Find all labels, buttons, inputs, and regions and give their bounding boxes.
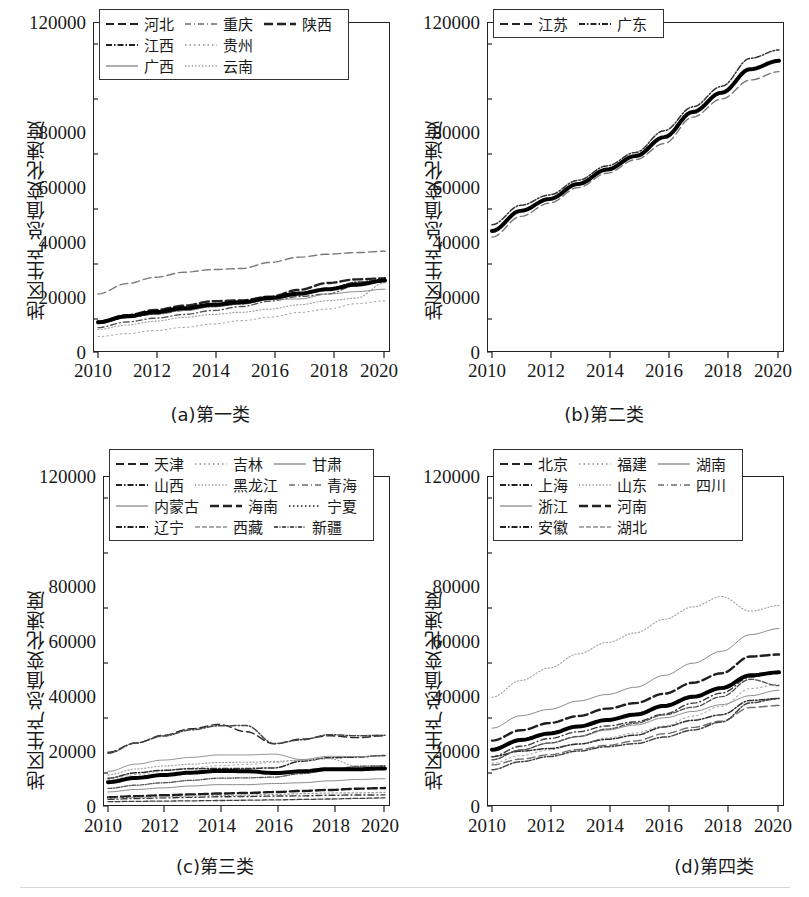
legend-line-icon	[578, 479, 612, 491]
panel-d-xtick-2012: 2012	[521, 815, 571, 837]
panel-a-legend[interactable]: 河北重庆陕西江西贵州 广西云南	[99, 9, 349, 80]
legend-key-dotted-light	[194, 458, 228, 470]
legend-item-福建[interactable]: 福建	[578, 453, 647, 474]
panel-a-xtick-2016: 2016	[245, 360, 295, 382]
legend-item-湖北[interactable]: 湖北	[578, 516, 647, 537]
legend-row: 天津吉林甘肃	[115, 453, 367, 474]
legend-item-新疆[interactable]: 新疆	[273, 516, 342, 537]
legend-item-辽宁[interactable]: 辽宁	[115, 516, 184, 537]
legend-item-青海[interactable]: 青海	[288, 474, 357, 495]
panel-d-xtick-2010: 2010	[462, 815, 512, 837]
legend-item-山西[interactable]: 山西	[115, 474, 184, 495]
legend-key-dashed	[499, 458, 533, 470]
panel-a-ytick-40000: 40000	[0, 232, 86, 254]
legend-label: 重庆	[223, 13, 253, 34]
legend-row: 山西黑龙江青海	[115, 474, 367, 495]
legend-item-天津[interactable]: 天津	[115, 453, 184, 474]
legend-item-河北[interactable]: 河北	[105, 13, 174, 34]
panel-c-xtick-2014: 2014	[192, 815, 242, 837]
panel-d-caption: (d)第四类	[654, 852, 774, 878]
legend-key-dash-dot	[499, 521, 533, 533]
legend-row: 浙江河南	[499, 495, 736, 516]
legend-item-浙江[interactable]: 浙江	[499, 495, 568, 516]
legend-label: 宁夏	[327, 495, 357, 516]
panel-b-legend[interactable]: 江苏广东	[493, 9, 664, 38]
panel-a-xtick-2014: 2014	[186, 360, 236, 382]
panel-a-xtick-2012: 2012	[127, 360, 177, 382]
legend-key-dashed-thick	[578, 500, 612, 512]
legend-row: 江苏广东	[499, 13, 657, 34]
legend-label: 北京	[538, 453, 568, 474]
legend-key-dotted-light	[184, 39, 218, 51]
panel-a-ytick-20000: 20000	[0, 287, 86, 309]
legend-item-甘肃[interactable]: 甘肃	[273, 453, 342, 474]
legend-line-icon	[288, 479, 322, 491]
panel-c-legend[interactable]: 天津吉林甘肃山西黑龙江青海内蒙古海南宁夏辽宁西藏新疆	[109, 449, 374, 541]
legend-line-icon	[105, 18, 139, 30]
legend-label: 广东	[617, 13, 647, 34]
legend-item-内蒙古[interactable]: 内蒙古	[115, 495, 199, 516]
panel-d-ytick-40000: 40000	[394, 686, 480, 708]
legend-item-陕西[interactable]: 陕西	[263, 13, 332, 34]
legend-key-dashed-thick	[209, 500, 243, 512]
legend-label: 河北	[144, 13, 174, 34]
legend-item-吉林[interactable]: 吉林	[194, 453, 263, 474]
legend-line-icon	[578, 18, 612, 30]
legend-line-icon	[578, 500, 612, 512]
panel-a-caption: (a)第一类	[150, 400, 270, 426]
panel-b-xtick-2018: 2018	[698, 360, 748, 382]
legend-item-湖南[interactable]: 湖南	[657, 453, 726, 474]
legend-item-贵州[interactable]: 贵州	[184, 34, 253, 55]
legend-line-icon	[115, 500, 149, 512]
legend-label: 辽宁	[154, 516, 184, 537]
legend-key-dashed	[499, 18, 533, 30]
legend-label: 四川	[696, 474, 726, 495]
legend-key-dash-dot	[115, 479, 149, 491]
legend-label: 西藏	[233, 516, 263, 537]
legend-item-四川[interactable]: 四川	[657, 474, 726, 495]
legend-key-dashed-thick	[263, 18, 297, 30]
legend-label: 福建	[617, 453, 647, 474]
legend-item-宁夏[interactable]: 宁夏	[288, 495, 357, 516]
legend-item-江西[interactable]: 江西	[105, 34, 174, 55]
legend-item-黑龙江[interactable]: 黑龙江	[194, 474, 278, 495]
legend-item-北京[interactable]: 北京	[499, 453, 568, 474]
legend-item-云南[interactable]: 云南	[184, 55, 253, 76]
legend-item-广西[interactable]: 广西	[105, 55, 174, 76]
legend-row: 江西贵州	[105, 34, 342, 55]
legend-item-山东[interactable]: 山东	[578, 474, 647, 495]
panel-d-ytick-20000: 20000	[394, 741, 480, 763]
legend-key-dashed	[105, 18, 139, 30]
panel-b-caption: (b)第二类	[544, 400, 664, 426]
legend-line-icon	[209, 500, 243, 512]
panel-b-xtick-2020: 2020	[748, 360, 798, 382]
panel-d-legend[interactable]: 北京福建湖南上海山东四川浙江河南 安徽湖北	[493, 449, 743, 541]
legend-item-广东[interactable]: 广东	[578, 13, 647, 34]
legend-label: 广西	[144, 55, 174, 76]
panel-b-ytick-120000: 120000	[394, 12, 480, 34]
legend-item-上海[interactable]: 上海	[499, 474, 568, 495]
legend-key-dash-fine	[578, 521, 612, 533]
legend-key-dotted-light	[578, 458, 612, 470]
legend-label: 云南	[223, 55, 253, 76]
panel-b-ytick-40000: 40000	[394, 232, 480, 254]
panel-b-xtick-2016: 2016	[639, 360, 689, 382]
panel-d-xtick-2014: 2014	[580, 815, 630, 837]
legend-item-安徽[interactable]: 安徽	[499, 516, 568, 537]
panel-a: 地区生产总值变化速度 120000 80000 60000 40000 2000…	[0, 0, 405, 440]
legend-label: 新疆	[312, 516, 342, 537]
legend-item-西藏[interactable]: 西藏	[194, 516, 263, 537]
legend-label: 河南	[617, 495, 647, 516]
legend-row: 河北重庆陕西	[105, 13, 342, 34]
panel-c-xtick-2016: 2016	[249, 815, 299, 837]
legend-item-河南[interactable]: 河南	[578, 495, 647, 516]
panel-c-caption: (c)第三类	[155, 852, 275, 878]
panel-a-ytick-60000: 60000	[0, 177, 86, 199]
legend-item-江苏[interactable]: 江苏	[499, 13, 568, 34]
legend-line-icon	[273, 521, 307, 533]
legend-key-dash-dot	[105, 39, 139, 51]
legend-item-海南[interactable]: 海南	[209, 495, 278, 516]
panel-d-xtick-2016: 2016	[639, 815, 689, 837]
legend-key-dotted-fine	[184, 60, 218, 72]
legend-item-重庆[interactable]: 重庆	[184, 13, 253, 34]
